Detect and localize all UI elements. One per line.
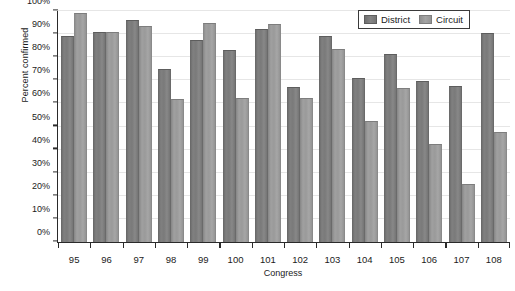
x-tick-mark: [478, 242, 479, 248]
x-tick-mark: [349, 242, 350, 248]
bar-group-104: 104: [349, 11, 381, 242]
bar-circuit-107: [462, 184, 475, 242]
y-tick-label: 100%: [16, 0, 50, 6]
bar-group-105: 105: [381, 11, 413, 242]
bar-district-96: [93, 32, 106, 242]
bar-circuit-103: [332, 49, 345, 242]
x-tick-mark: [413, 242, 414, 248]
bar-district-105: [384, 54, 397, 242]
x-tick-mark: [252, 242, 253, 248]
x-tick-label-97: 97: [123, 254, 155, 265]
bar-circuit-101: [268, 24, 281, 242]
bar-group-106: 106: [413, 11, 445, 242]
y-tick-label: 50%: [16, 112, 50, 122]
bar-group-102: 102: [284, 11, 316, 242]
y-tick-label: 60%: [16, 88, 50, 98]
x-tick-label-101: 101: [252, 254, 284, 265]
x-tick-label-102: 102: [284, 254, 316, 265]
y-tick-label: 70%: [16, 65, 50, 75]
y-tick-label: 90%: [16, 19, 50, 29]
legend-swatch-district-icon: [364, 15, 377, 24]
x-tick-label-107: 107: [445, 254, 477, 265]
bar-group-101: 101: [252, 11, 284, 242]
bar-circuit-95: [74, 13, 87, 242]
x-tick-mark: [123, 242, 124, 248]
bar-district-104: [352, 78, 365, 242]
x-tick-label-100: 100: [219, 254, 251, 265]
bar-circuit-96: [106, 32, 119, 242]
bar-district-99: [190, 40, 203, 242]
x-tick-label-106: 106: [413, 254, 445, 265]
chart-legend: District Circuit: [358, 10, 470, 29]
legend-label-circuit: Circuit: [436, 14, 463, 25]
bar-circuit-99: [203, 23, 216, 242]
bar-district-106: [416, 81, 429, 242]
legend-item-circuit: Circuit: [419, 14, 463, 25]
bar-group-103: 103: [316, 11, 348, 242]
x-tick-mark: [155, 242, 156, 248]
bar-district-100: [223, 50, 236, 242]
bar-district-95: [61, 36, 74, 242]
bar-circuit-106: [429, 144, 442, 242]
x-axis-title: Congress: [57, 268, 509, 278]
x-tick-label-104: 104: [349, 254, 381, 265]
x-tick-label-98: 98: [155, 254, 187, 265]
x-tick-mark: [445, 242, 446, 248]
bar-group-97: 97: [123, 11, 155, 242]
bar-district-102: [287, 87, 300, 242]
bar-group-98: 98: [155, 11, 187, 242]
y-tick-label: 20%: [16, 181, 50, 191]
bar-district-103: [319, 36, 332, 242]
bar-group-108: 108: [478, 11, 510, 242]
x-tick-mark-end: [509, 242, 510, 248]
x-tick-label-108: 108: [478, 254, 510, 265]
bar-district-98: [158, 69, 171, 242]
bar-circuit-97: [139, 26, 152, 242]
bar-chart: Percent confirmed 0%10%20%30%40%50%60%70…: [0, 0, 515, 291]
bar-groups: 9596979899100101102103104105106107108: [58, 11, 510, 242]
x-tick-mark: [316, 242, 317, 248]
bar-group-96: 96: [90, 11, 122, 242]
legend-item-district: District: [364, 14, 410, 25]
x-tick-label-105: 105: [381, 254, 413, 265]
legend-label-district: District: [381, 14, 410, 25]
bar-district-97: [126, 20, 139, 242]
x-tick-mark: [219, 242, 220, 248]
bar-circuit-100: [236, 98, 249, 242]
y-tick-label: 80%: [16, 42, 50, 52]
x-tick-label-95: 95: [58, 254, 90, 265]
bar-circuit-98: [171, 99, 184, 242]
y-tick-label: 10%: [16, 204, 50, 214]
x-tick-label-99: 99: [187, 254, 219, 265]
bar-district-101: [255, 29, 268, 242]
bar-group-100: 100: [219, 11, 251, 242]
x-tick-mark: [187, 242, 188, 248]
x-tick-label-103: 103: [316, 254, 348, 265]
x-tick-mark: [58, 242, 59, 248]
bar-district-108: [481, 33, 494, 242]
bar-circuit-105: [397, 88, 410, 242]
y-tick-label: 30%: [16, 158, 50, 168]
plot-area: 0%10%20%30%40%50%60%70%80%90%100% 959697…: [57, 11, 510, 243]
legend-swatch-circuit-icon: [419, 15, 432, 24]
x-tick-mark: [381, 242, 382, 248]
x-tick-mark: [90, 242, 91, 248]
y-tick-label: 0%: [16, 227, 50, 237]
bar-circuit-102: [300, 98, 313, 242]
bar-group-95: 95: [58, 11, 90, 242]
bar-circuit-108: [494, 132, 507, 242]
bar-district-107: [449, 86, 462, 242]
x-tick-mark: [284, 242, 285, 248]
bar-circuit-104: [365, 121, 378, 242]
y-tick-label: 40%: [16, 135, 50, 145]
bar-group-107: 107: [445, 11, 477, 242]
bar-group-99: 99: [187, 11, 219, 242]
x-tick-label-96: 96: [90, 254, 122, 265]
